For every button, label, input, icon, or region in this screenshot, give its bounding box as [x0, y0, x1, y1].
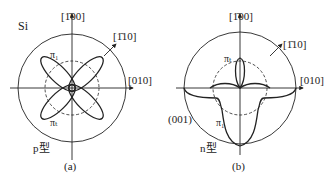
- piezoresistance-polar-diagram: Si [1̄00] [1̄10] [010] π₁ πₜ p型 (a) [1̄0…: [0, 0, 328, 177]
- panel-b: [1̄00] [1̄10] [010] πₜ π₁ (001) n型 (b): [168, 10, 324, 173]
- plane-label: (001): [168, 113, 192, 126]
- pi-top-label: π₁: [50, 49, 59, 60]
- material-label: Si: [18, 19, 29, 33]
- caption: (a): [64, 160, 77, 173]
- pi-bottom-label: π₁: [216, 117, 225, 128]
- axis-right-label: [010]: [128, 74, 152, 86]
- type-label: n型: [200, 141, 217, 154]
- pi-bottom-label: πₜ: [50, 117, 58, 128]
- axis-diag-label: [1̄10]: [283, 38, 306, 50]
- pi-top-label: πₜ: [224, 53, 232, 64]
- panel-a: Si [1̄00] [1̄10] [010] π₁ πₜ p型 (a): [10, 10, 152, 173]
- axis-top-label: [1̄00]: [229, 10, 253, 22]
- type-label: p型: [33, 141, 50, 154]
- diagonal-arrow: [270, 44, 282, 56]
- axis-diag-label: [1̄10]: [113, 30, 136, 42]
- axis-right-label: [010]: [300, 74, 324, 86]
- caption: (b): [232, 160, 245, 173]
- axis-top-label: [1̄00]: [61, 10, 85, 22]
